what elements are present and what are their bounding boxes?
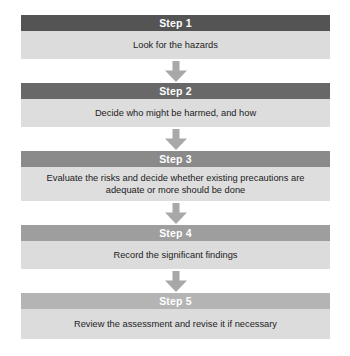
- step-block: Step 3Evaluate the risks and decide whet…: [21, 151, 330, 201]
- step-body-text: Evaluate the risks and decide whether ex…: [39, 172, 312, 197]
- step-body: Review the assessment and revise it if n…: [21, 309, 330, 339]
- step-block: Step 2Decide who might be harmed, and ho…: [21, 83, 330, 127]
- step-block: Step 5Review the assessment and revise i…: [21, 293, 330, 339]
- step-connector: [21, 201, 330, 225]
- step-header: Step 4: [21, 225, 330, 241]
- step-body: Record the significant findings: [21, 241, 330, 269]
- step-block: Step 4Record the significant findings: [21, 225, 330, 269]
- down-arrow-icon: [164, 129, 188, 150]
- down-arrow-icon: [164, 61, 188, 82]
- step-body-text: Look for the hazards: [39, 39, 312, 52]
- flowchart-container: Step 1Look for the hazardsStep 2Decide w…: [0, 0, 350, 356]
- step-block: Step 1Look for the hazards: [21, 15, 330, 59]
- down-arrow-icon: [164, 271, 188, 292]
- step-body: Look for the hazards: [21, 31, 330, 59]
- step-header: Step 1: [21, 15, 330, 31]
- step-body: Evaluate the risks and decide whether ex…: [21, 167, 330, 201]
- step-header: Step 5: [21, 293, 330, 309]
- step-connector: [21, 269, 330, 293]
- step-header: Step 2: [21, 83, 330, 99]
- down-arrow-icon: [164, 203, 188, 224]
- step-body-text: Decide who might be harmed, and how: [39, 107, 312, 120]
- step-header: Step 3: [21, 151, 330, 167]
- step-connector: [21, 127, 330, 151]
- step-body: Decide who might be harmed, and how: [21, 99, 330, 127]
- step-body-text: Record the significant findings: [39, 249, 312, 262]
- step-connector: [21, 59, 330, 83]
- step-body-text: Review the assessment and revise it if n…: [39, 318, 312, 331]
